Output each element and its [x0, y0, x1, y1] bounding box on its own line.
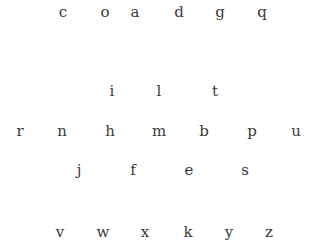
letter-v: v [56, 225, 64, 240]
letter-u: u [291, 124, 301, 139]
letter-s: s [241, 163, 249, 178]
letter-b: b [199, 124, 209, 139]
letter-t: t [212, 84, 218, 99]
letter-l: l [157, 84, 162, 99]
letter-d: d [174, 5, 184, 20]
letter-z: z [265, 225, 273, 240]
letter-f: f [130, 163, 136, 178]
letter-r: r [16, 124, 23, 139]
letter-y: y [225, 225, 233, 240]
letter-o: o [100, 5, 109, 20]
letter-q: q [257, 5, 267, 20]
letter-x: x [141, 225, 149, 240]
letter-e: e [185, 163, 194, 178]
letter-g: g [215, 5, 225, 20]
letter-k: k [183, 225, 192, 240]
letter-a: a [131, 5, 140, 20]
letter-n: n [57, 124, 67, 139]
letter-m: m [152, 124, 166, 139]
letter-c: c [59, 5, 67, 20]
letter-i: i [110, 84, 115, 99]
letter-j: j [77, 163, 82, 178]
letter-h: h [105, 124, 115, 139]
letter-p: p [247, 124, 257, 139]
letter-w: w [97, 225, 110, 240]
